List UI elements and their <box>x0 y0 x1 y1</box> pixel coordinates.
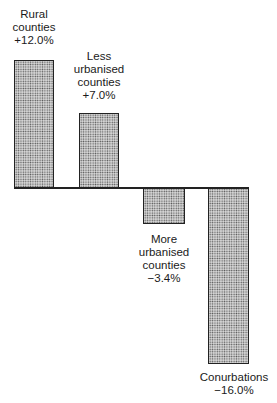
label-line: counties <box>13 21 56 34</box>
label-line: More <box>139 233 190 246</box>
label-line: urbanised <box>74 63 125 76</box>
value-label: −3.4% <box>139 272 190 285</box>
label-less-urbanised-counties: Less urbanised counties +7.0% <box>74 50 125 102</box>
bar-rural-counties <box>14 60 54 189</box>
bar-conurbations <box>208 187 249 364</box>
label-line: Rural <box>13 8 56 21</box>
value-label: −16.0% <box>200 384 268 397</box>
label-line: counties <box>74 76 125 89</box>
zero-baseline <box>14 187 249 189</box>
label-line: urbanised <box>139 246 190 259</box>
label-rural-counties: Rural counties +12.0% <box>13 8 56 47</box>
label-conurbations: Conurbations −16.0% <box>200 371 268 397</box>
bar-more-urbanised-counties <box>143 187 185 224</box>
bar-less-urbanised-counties <box>79 113 119 189</box>
label-more-urbanised-counties: More urbanised counties −3.4% <box>139 233 190 285</box>
label-line: Conurbations <box>200 371 268 384</box>
label-line: counties <box>139 259 190 272</box>
value-label: +7.0% <box>74 89 125 102</box>
value-label: +12.0% <box>13 34 56 47</box>
label-line: Less <box>74 50 125 63</box>
